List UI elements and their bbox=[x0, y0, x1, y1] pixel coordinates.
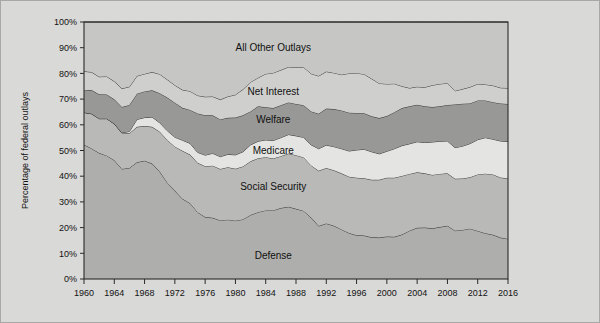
x-tick-label: 1992 bbox=[316, 288, 336, 298]
y-axis-title: Percentage of federal outlays bbox=[20, 91, 30, 209]
y-tick-label: 50% bbox=[59, 146, 77, 156]
x-tick-label: 1980 bbox=[225, 288, 245, 298]
x-tick-label: 1988 bbox=[286, 288, 306, 298]
y-tick-label: 20% bbox=[59, 223, 77, 233]
y-tick-label: 100% bbox=[54, 17, 77, 27]
series-label-defense: Defense bbox=[255, 250, 293, 261]
y-tick-label: 60% bbox=[59, 120, 77, 130]
series-label-medicare: Medicare bbox=[253, 145, 295, 156]
x-tick-label: 1972 bbox=[165, 288, 185, 298]
series-label-net-interest: Net Interest bbox=[247, 86, 299, 97]
series-label-social-security: Social Security bbox=[240, 181, 306, 192]
x-tick-label: 2000 bbox=[377, 288, 397, 298]
x-tick-label: 2016 bbox=[498, 288, 518, 298]
chart-frame: 0%10%20%30%40%50%60%70%80%90%100%1960196… bbox=[0, 0, 600, 323]
y-tick-label: 40% bbox=[59, 171, 77, 181]
y-tick-label: 90% bbox=[59, 43, 77, 53]
x-tick-label: 1984 bbox=[256, 288, 276, 298]
chart-svg: 0%10%20%30%40%50%60%70%80%90%100%1960196… bbox=[1, 1, 600, 323]
x-tick-label: 2008 bbox=[437, 288, 457, 298]
x-tick-label: 1996 bbox=[347, 288, 367, 298]
y-tick-label: 30% bbox=[59, 197, 77, 207]
y-tick-label: 80% bbox=[59, 69, 77, 79]
y-tick-label: 10% bbox=[59, 249, 77, 259]
x-tick-label: 1960 bbox=[74, 288, 94, 298]
series-label-all-other-outlays: All Other Outlays bbox=[235, 42, 311, 53]
stacked-area-chart: 0%10%20%30%40%50%60%70%80%90%100%1960196… bbox=[1, 1, 600, 323]
x-tick-label: 1976 bbox=[195, 288, 215, 298]
series-label-welfare: Welfare bbox=[256, 114, 291, 125]
x-tick-label: 1968 bbox=[135, 288, 155, 298]
x-tick-label: 1964 bbox=[104, 288, 124, 298]
y-tick-label: 70% bbox=[59, 94, 77, 104]
x-tick-label: 2004 bbox=[407, 288, 427, 298]
y-tick-label: 0% bbox=[64, 274, 77, 284]
x-tick-label: 2012 bbox=[468, 288, 488, 298]
